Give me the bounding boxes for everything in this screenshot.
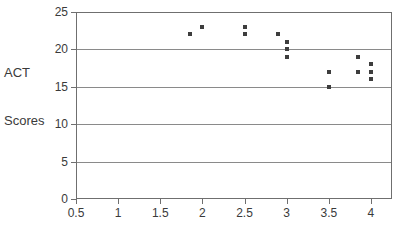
data-point xyxy=(188,32,192,36)
plot-area: 0510152025 0.511.522.533.54 xyxy=(76,12,392,199)
x-tick-label-1.5: 1.5 xyxy=(152,207,169,219)
x-tick-mark-3 xyxy=(287,199,288,204)
data-point xyxy=(327,70,331,74)
x-tick-mark-1 xyxy=(118,199,119,204)
y-tick-label-20: 20 xyxy=(55,43,68,55)
x-tick-mark-1.5 xyxy=(160,199,161,204)
data-point xyxy=(369,62,373,66)
y-tick-label-5: 5 xyxy=(61,156,68,168)
data-point xyxy=(243,25,247,29)
x-tick-mark-2.5 xyxy=(245,199,246,204)
y-tick-label-10: 10 xyxy=(55,118,68,130)
data-point xyxy=(356,70,360,74)
data-point xyxy=(327,85,331,89)
y-axis-title-line-1: ACT xyxy=(4,65,70,81)
gridline-y-10 xyxy=(76,124,392,125)
x-tick-mark-0.5 xyxy=(76,199,77,204)
y-tick-label-25: 25 xyxy=(55,6,68,18)
data-point xyxy=(276,32,280,36)
gridline-y-20 xyxy=(76,49,392,50)
gridline-y-5 xyxy=(76,162,392,163)
data-point xyxy=(243,32,247,36)
plot-frame xyxy=(76,12,392,199)
x-tick-label-3.5: 3.5 xyxy=(320,207,337,219)
y-tick-mark-5 xyxy=(71,162,76,163)
x-tick-mark-2 xyxy=(202,199,203,204)
x-tick-label-3: 3 xyxy=(283,207,290,219)
data-point xyxy=(285,47,289,51)
data-point xyxy=(285,55,289,59)
x-tick-label-2.5: 2.5 xyxy=(236,207,253,219)
x-tick-mark-3.5 xyxy=(329,199,330,204)
data-point xyxy=(356,55,360,59)
y-tick-label-0: 0 xyxy=(61,193,68,205)
data-point xyxy=(369,77,373,81)
x-tick-mark-4 xyxy=(371,199,372,204)
x-axis-title-clipped xyxy=(76,230,392,236)
y-tick-mark-10 xyxy=(71,124,76,125)
gridline-y-15 xyxy=(76,87,392,88)
data-point xyxy=(369,70,373,74)
x-tick-label-4: 4 xyxy=(368,207,375,219)
x-tick-label-1: 1 xyxy=(115,207,122,219)
x-tick-label-2: 2 xyxy=(199,207,206,219)
data-point xyxy=(200,25,204,29)
y-tick-label-15: 15 xyxy=(55,81,68,93)
data-point xyxy=(285,40,289,44)
x-tick-label-0.5: 0.5 xyxy=(68,207,85,219)
scatter-plot-figure: ACT Scores 0510152025 0.511.522.533.54 xyxy=(0,0,404,236)
y-tick-mark-25 xyxy=(71,12,76,13)
y-tick-mark-20 xyxy=(71,49,76,50)
y-tick-mark-15 xyxy=(71,87,76,88)
